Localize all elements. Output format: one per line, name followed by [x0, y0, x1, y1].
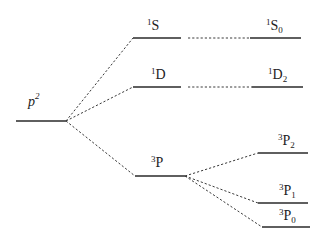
connector-3P-to-3P1 — [185, 176, 258, 203]
label-p2: p2 — [27, 91, 40, 109]
connector-p2-to-3P — [66, 121, 135, 176]
label-3P2: 3P2 — [278, 132, 295, 150]
label-1D: 1D — [151, 66, 166, 82]
connector-3P-to-3P2 — [185, 153, 258, 176]
energy-level-diagram: p2 1S 1D 3P 1S0 1D2 3P2 3P1 3P0 — [0, 0, 325, 243]
label-3P0: 3P0 — [279, 207, 296, 225]
label-3P: 3P — [151, 154, 164, 170]
label-3P1: 3P1 — [279, 182, 296, 200]
label-1S0: 1S0 — [266, 17, 283, 35]
label-1S: 1S — [147, 17, 159, 33]
label-1D2: 1D2 — [268, 66, 287, 84]
connector-3P-to-3P0 — [185, 176, 262, 227]
connector-p2-to-1D — [66, 87, 133, 121]
connector-p2-to-1S — [66, 38, 133, 121]
